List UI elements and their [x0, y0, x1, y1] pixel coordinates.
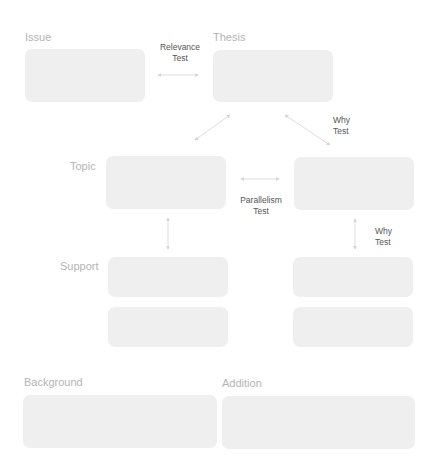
connector-arrows [0, 0, 442, 464]
thesis-topic-left-arrow [195, 115, 230, 140]
thesis-topic-right-arrow [285, 115, 330, 145]
